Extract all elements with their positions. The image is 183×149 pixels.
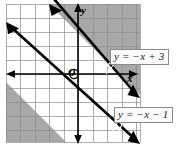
equation-label-lower: y = −x − 1 xyxy=(114,107,173,123)
origin-label: O xyxy=(68,67,75,78)
x-axis-label: x xyxy=(127,72,133,84)
equation-label-upper: y = −x + 3 xyxy=(110,49,169,65)
y-axis-label: y xyxy=(81,4,86,16)
inequality-graph-figure: y x O y = −x + 3 y = −x − 1 xyxy=(0,0,183,149)
graph-canvas xyxy=(0,0,183,149)
